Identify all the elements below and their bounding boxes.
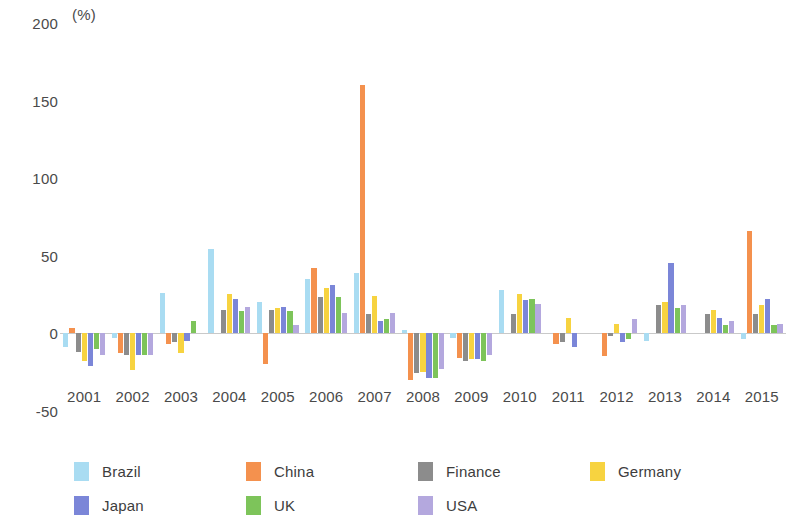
bar-usa-2012 — [632, 319, 637, 333]
legend-item-germany[interactable]: Germany — [590, 460, 681, 482]
bar-japan-2008 — [426, 333, 431, 378]
bar-uk-2010 — [529, 299, 534, 333]
bar-china-2001 — [69, 328, 74, 333]
bar-japan-2005 — [281, 307, 286, 333]
bar-finance-2014 — [705, 314, 710, 333]
bar-brazil-2002 — [112, 333, 117, 338]
bar-japan-2002 — [136, 333, 141, 355]
bar-usa-2014 — [729, 321, 734, 333]
bar-uk-2012 — [626, 333, 631, 339]
bar-japan-2009 — [475, 333, 480, 359]
bar-japan-2011 — [572, 333, 577, 347]
bar-germany-2010 — [517, 294, 522, 333]
bar-uk-2013 — [675, 308, 680, 333]
bar-usa-2010 — [535, 304, 540, 333]
x-axis-tick-label: 2005 — [254, 388, 302, 405]
bar-uk-2003 — [191, 321, 196, 333]
bar-usa-2013 — [681, 305, 686, 333]
bar-group — [254, 0, 302, 430]
x-axis-tick-label: 2014 — [689, 388, 737, 405]
legend-item-finance[interactable]: Finance — [418, 460, 501, 482]
x-axis-tick-label: 2008 — [399, 388, 447, 405]
bar-group — [399, 0, 447, 430]
legend-item-usa[interactable]: USA — [418, 494, 477, 516]
bar-usa-2007 — [390, 313, 395, 333]
bar-finance-2001 — [76, 333, 81, 352]
bar-japan-2007 — [378, 321, 383, 333]
bar-finance-2012 — [608, 333, 613, 336]
bar-finance-2004 — [221, 310, 226, 333]
bar-uk-2014 — [723, 325, 728, 333]
legend-swatch-germany-icon — [590, 462, 605, 481]
bar-group — [350, 0, 398, 430]
bar-group — [60, 0, 108, 430]
bar-group — [108, 0, 156, 430]
bar-finance-2002 — [124, 333, 129, 355]
bar-uk-2015 — [771, 325, 776, 333]
bar-germany-2008 — [420, 333, 425, 372]
bar-germany-2002 — [130, 333, 135, 370]
x-axis-tick-label: 2006 — [302, 388, 350, 405]
bar-finance-2006 — [318, 297, 323, 333]
bar-usa-2001 — [100, 333, 105, 355]
bar-china-2005 — [263, 333, 268, 364]
bar-group — [447, 0, 495, 430]
bar-uk-2004 — [239, 311, 244, 333]
legend-label: Brazil — [102, 463, 141, 480]
x-axis-tick-label: 2011 — [544, 388, 592, 405]
bar-uk-2005 — [287, 311, 292, 333]
y-axis-tick-label: 0 — [6, 325, 58, 342]
bar-china-2007 — [360, 85, 365, 333]
bar-germany-2015 — [759, 305, 764, 333]
x-axis-tick-label: 2002 — [108, 388, 156, 405]
bar-brazil-2001 — [63, 333, 68, 347]
bar-finance-2010 — [511, 314, 516, 333]
bar-uk-2001 — [94, 333, 99, 349]
bar-usa-2009 — [487, 333, 492, 355]
bar-brazil-2003 — [160, 293, 165, 333]
bar-usa-2002 — [148, 333, 153, 355]
bar-uk-2006 — [336, 297, 341, 333]
bar-japan-2001 — [88, 333, 93, 366]
bar-uk-2008 — [433, 333, 438, 378]
chart-legend: BrazilChinaFinanceGermanyJapanUKUSA — [74, 460, 774, 522]
bar-brazil-2008 — [402, 330, 407, 333]
legend-swatch-finance-icon — [418, 462, 433, 481]
y-axis-tick-label: 200 — [6, 15, 58, 32]
legend-swatch-usa-icon — [418, 496, 433, 515]
legend-item-brazil[interactable]: Brazil — [74, 460, 141, 482]
bar-germany-2012 — [614, 324, 619, 333]
bar-group — [302, 0, 350, 430]
bar-china-2015 — [747, 231, 752, 333]
bar-finance-2015 — [753, 314, 758, 333]
legend-label: China — [274, 463, 314, 480]
bar-brazil-2010 — [499, 290, 504, 333]
bar-germany-2007 — [372, 296, 377, 333]
legend-item-uk[interactable]: UK — [246, 494, 295, 516]
x-axis-tick-label: 2004 — [205, 388, 253, 405]
bar-japan-2015 — [765, 299, 770, 333]
bar-germany-2004 — [227, 294, 232, 333]
bar-group — [689, 0, 737, 430]
bar-brazil-2004 — [208, 249, 213, 333]
bar-brazil-2013 — [644, 333, 649, 341]
x-axis-tick-label: 2010 — [496, 388, 544, 405]
bar-germany-2003 — [178, 333, 183, 353]
bar-china-2012 — [602, 333, 607, 356]
bar-finance-2007 — [366, 314, 371, 333]
bar-japan-2013 — [668, 263, 673, 333]
bar-china-2006 — [311, 268, 316, 333]
bar-germany-2013 — [662, 302, 667, 333]
y-axis-tick-label: -50 — [6, 402, 58, 419]
bar-uk-2007 — [384, 319, 389, 333]
bar-brazil-2005 — [257, 302, 262, 333]
bar-finance-2003 — [172, 333, 177, 342]
bar-group — [592, 0, 640, 430]
bar-japan-2012 — [620, 333, 625, 342]
legend-label: UK — [274, 497, 295, 514]
legend-item-china[interactable]: China — [246, 460, 314, 482]
x-axis-tick-label: 2009 — [447, 388, 495, 405]
legend-item-japan[interactable]: Japan — [74, 494, 144, 516]
x-axis-tick-label: 2015 — [738, 388, 786, 405]
bar-usa-2004 — [245, 307, 250, 333]
